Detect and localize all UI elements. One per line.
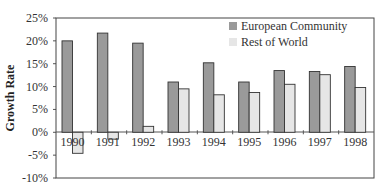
- bar-rest-of-world: [320, 75, 331, 133]
- bar-european-community: [97, 33, 108, 132]
- legend-swatch: [229, 38, 237, 46]
- x-tick-label: 1996: [273, 135, 297, 149]
- y-tick-label: 5%: [32, 102, 48, 116]
- y-axis-ticks: 25%20%15%10%5%0%-5%-10%: [22, 11, 56, 183]
- bar-european-community: [62, 41, 73, 132]
- bar-rest-of-world: [285, 84, 296, 132]
- bar-chart: Growth Rate 25%20%15%10%5%0%-5%-10% 1990…: [0, 0, 379, 183]
- x-tick-label: 1995: [237, 135, 261, 149]
- x-axis-ticks: 199019911992199319941995199619971998: [61, 135, 368, 149]
- x-tick-label: 1993: [167, 135, 191, 149]
- y-tick-label: 25%: [26, 11, 48, 25]
- y-tick-label: -10%: [22, 171, 48, 183]
- legend-label: European Community: [241, 19, 347, 33]
- y-tick-label: 15%: [26, 57, 48, 71]
- bar-rest-of-world: [214, 95, 225, 132]
- bar-rest-of-world: [249, 93, 260, 133]
- x-tick-label: 1994: [202, 135, 226, 149]
- bar-european-community: [203, 63, 214, 132]
- bar-european-community: [345, 66, 356, 132]
- y-tick-label: -5%: [28, 148, 48, 162]
- bar-rest-of-world: [355, 87, 366, 132]
- bar-european-community: [309, 71, 320, 132]
- bar-rest-of-world: [179, 89, 190, 132]
- y-tick-label: 10%: [26, 80, 48, 94]
- x-tick-label: 1990: [61, 135, 85, 149]
- bar-european-community: [168, 82, 179, 132]
- legend: European CommunityRest of World: [229, 19, 347, 49]
- y-axis-label: Growth Rate: [3, 64, 17, 131]
- x-tick-label: 1998: [343, 135, 367, 149]
- x-tick-label: 1997: [308, 135, 332, 149]
- x-tick-label: 1991: [96, 135, 120, 149]
- bar-rest-of-world: [143, 126, 154, 132]
- bar-european-community: [133, 43, 144, 132]
- bar-european-community: [239, 82, 250, 132]
- y-tick-label: 20%: [26, 34, 48, 48]
- y-axis-title: Growth Rate: [3, 64, 17, 131]
- legend-label: Rest of World: [241, 35, 308, 49]
- x-tick-label: 1992: [131, 135, 155, 149]
- bar-european-community: [274, 71, 285, 133]
- legend-swatch: [229, 22, 237, 30]
- y-tick-label: 0%: [32, 125, 48, 139]
